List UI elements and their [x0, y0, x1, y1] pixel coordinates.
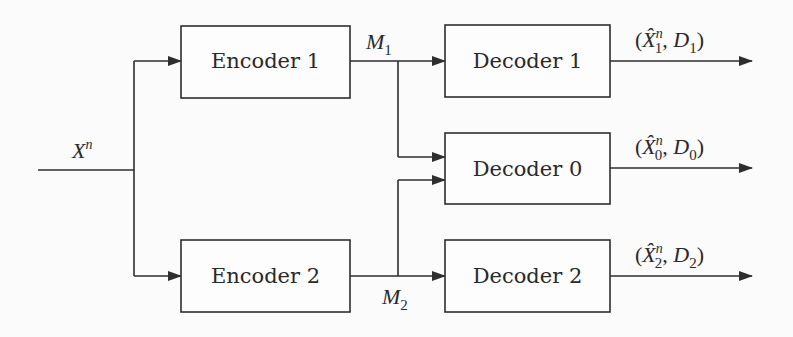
decoder-2-label: Decoder 2 — [473, 264, 583, 288]
m1-wires — [350, 61, 445, 157]
encoder-2-label: Encoder 2 — [211, 264, 320, 288]
decoder-1-block: Decoder 1 — [445, 25, 610, 97]
m2-wires — [350, 180, 445, 276]
encoder-1-block: Encoder 1 — [181, 26, 350, 98]
encoder-1-label: Encoder 1 — [211, 49, 320, 73]
decoder-2-output-label: (X̂n2, D2) — [635, 241, 704, 271]
m2-label: M2 — [381, 284, 408, 313]
decoder-0-label: Decoder 0 — [473, 157, 583, 181]
decoder-0-block: Decoder 0 — [445, 133, 610, 204]
encoder-2-block: Encoder 2 — [181, 240, 350, 312]
input-wire — [38, 61, 181, 276]
decoder-1-output-label: (X̂n1, D1) — [635, 26, 704, 56]
m1-label: M1 — [365, 29, 392, 58]
decoder-2-block: Decoder 2 — [445, 240, 610, 312]
decoder-0-output-label: (X̂n0, D0) — [635, 133, 704, 163]
input-label: Xn — [71, 137, 92, 163]
decoder-1-label: Decoder 1 — [473, 49, 583, 73]
mdc-diagram: Xn Encoder 1 Encoder 2 M1 M2 Decoder 1 D… — [0, 0, 793, 337]
